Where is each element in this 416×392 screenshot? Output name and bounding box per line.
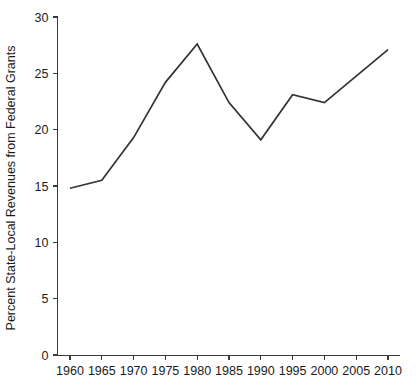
x-tick-label: 2010 <box>374 364 402 378</box>
y-tick-label: 20 <box>35 123 49 137</box>
x-tick-label: 2005 <box>342 364 370 378</box>
x-tick-label: 1985 <box>215 364 243 378</box>
x-tick-label: 2000 <box>310 364 338 378</box>
chart-container: Percent State-Local Revenues from Federa… <box>0 0 416 392</box>
data-series-line <box>70 44 388 188</box>
y-tick-label: 10 <box>35 236 49 250</box>
x-tick-label: 1970 <box>120 364 148 378</box>
x-tick-label: 1980 <box>183 364 211 378</box>
y-tick-label: 0 <box>42 349 49 363</box>
y-axis-ticks: 051015202530 <box>35 11 58 363</box>
line-chart: Percent State-Local Revenues from Federa… <box>0 0 416 392</box>
x-tick-label: 1995 <box>279 364 307 378</box>
y-tick-label: 15 <box>35 180 49 194</box>
x-tick-label: 1965 <box>88 364 116 378</box>
x-tick-label: 1990 <box>247 364 275 378</box>
y-axis-title: Percent State-Local Revenues from Federa… <box>4 46 18 331</box>
y-tick-label: 30 <box>35 11 49 25</box>
y-tick-label: 25 <box>35 67 49 81</box>
x-tick-label: 1975 <box>151 364 179 378</box>
x-tick-label: 1960 <box>56 364 84 378</box>
y-tick-label: 5 <box>42 292 49 306</box>
x-axis-ticks: 1960196519701975198019851990199520002005… <box>56 355 402 378</box>
